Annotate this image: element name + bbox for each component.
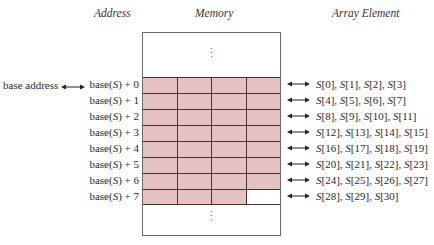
memory-cell [247,110,281,125]
address-label: base(S) + 2 [61,110,139,122]
array-element-text: S[8], S[9], S[10], S[11] [316,110,416,122]
array-element-label: S[8], S[9], S[10], S[11] [287,110,416,122]
memory-cell [143,142,178,157]
memory-row [143,109,280,125]
double-arrow-icon [287,128,310,136]
address-label: base(S) + 0 [61,78,139,90]
double-arrow-icon [287,80,310,88]
memory-cell [178,78,213,93]
header-memory: Memory [195,7,233,19]
memory-cell [247,158,281,173]
memory-cell [178,142,213,157]
array-element-text: S[16], S[17], S[18], S[19] [316,142,428,154]
memory-cell [143,174,178,189]
double-arrow-icon [287,176,310,184]
memory-cell [178,94,213,109]
address-label: base(S) + 6 [61,174,139,186]
memory-cell [212,158,247,173]
address-label: base(S) + 3 [61,126,139,138]
memory-cell [212,190,247,204]
memory-cell [247,174,281,189]
memory-cell [143,126,178,141]
memory-row [143,77,280,93]
memory-cell [143,190,178,204]
memory-cell [247,78,281,93]
memory-cell [143,158,178,173]
double-arrow-icon [287,96,310,104]
memory-cell [178,126,213,141]
memory-cell-empty [247,190,281,204]
array-element-label: S[16], S[17], S[18], S[19] [287,142,428,154]
double-arrow-icon [287,112,310,120]
memory-cell [178,190,213,204]
memory-cell [212,110,247,125]
memory-cell [212,174,247,189]
base-address-text: base address [3,79,58,91]
memory-cell [178,158,213,173]
address-label: base(S) + 7 [61,190,139,202]
memory-cell [143,78,178,93]
array-element-text: S[20], S[21], S[22], S[23] [316,158,428,170]
array-element-label: S[20], S[21], S[22], S[23] [287,158,428,170]
memory-cell [247,142,281,157]
memory-row [143,125,280,141]
array-element-label: S[0], S[1], S[2], S[3] [287,78,406,90]
array-element-text: S[12], S[13], S[14], S[15] [316,126,428,138]
memory-cell [178,110,213,125]
memory-cell [143,110,178,125]
memory-row [143,93,280,109]
address-label: base(S) + 1 [61,94,139,106]
memory-block: ··· ··· [142,32,281,236]
memory-cell [212,94,247,109]
address-label: base(S) + 4 [61,142,139,154]
address-label: base(S) + 5 [61,158,139,170]
memory-cell [212,78,247,93]
array-element-label: S[12], S[13], S[14], S[15] [287,126,428,138]
header-array-element: Array Element [332,7,399,19]
memory-row [143,157,280,173]
array-element-text: S[24], S[25], S[26], S[27] [316,174,428,186]
array-element-text: S[0], S[1], S[2], S[3] [316,78,406,90]
array-element-text: S[28], S[29], S[30] [316,190,398,202]
memory-row [143,173,280,189]
bottom-ellipsis-icon: ··· [143,210,280,222]
memory-cell [212,126,247,141]
memory-cell [247,94,281,109]
memory-grid [143,77,280,205]
double-arrow-icon [287,160,310,168]
top-ellipsis-icon: ··· [143,47,280,59]
memory-cell [247,126,281,141]
memory-cell [212,142,247,157]
array-element-label: S[24], S[25], S[26], S[27] [287,174,428,186]
memory-row [143,189,280,205]
array-element-label: S[28], S[29], S[30] [287,190,398,202]
memory-cell [178,174,213,189]
double-arrow-icon [287,144,310,152]
array-element-text: S[4], S[5], S[6], S[7] [316,94,406,106]
double-arrow-icon [287,192,310,200]
header-address: Address [94,7,131,19]
memory-row [143,141,280,157]
array-element-label: S[4], S[5], S[6], S[7] [287,94,406,106]
memory-cell [143,94,178,109]
